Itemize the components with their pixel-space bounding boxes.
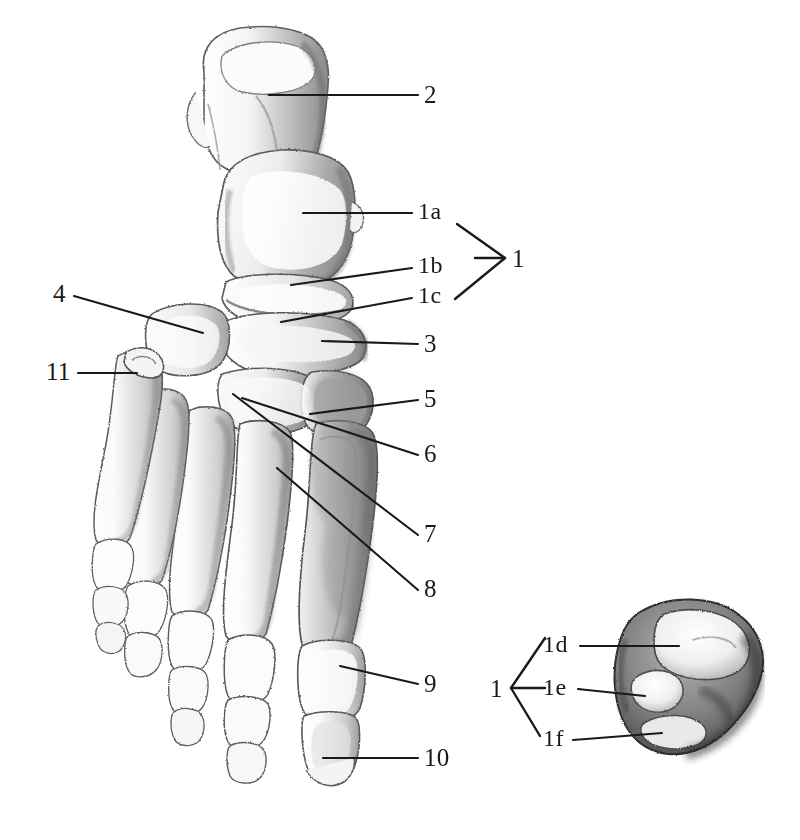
label-1c: 1c [418,283,442,307]
label-11: 11 [46,359,71,384]
navicular-bone [220,313,366,376]
label-1-main: 1 [512,246,525,271]
label-1d: 1d [543,632,568,656]
label-2: 2 [424,82,437,107]
label-1b: 1b [418,253,443,277]
label-7: 7 [424,521,437,546]
label-1e: 1e [543,675,567,699]
label-6: 6 [424,441,437,466]
proximal-phalanx-1 [298,640,366,721]
distal-phalanx-1 [302,712,360,786]
label-5: 5 [424,386,437,411]
label-1f: 1f [543,726,564,750]
label-1a: 1a [418,199,442,223]
label-10: 10 [424,745,450,770]
label-3: 3 [424,331,437,356]
talus-bone [218,150,364,289]
anatomical-plate: 21a1b1c1356789104111d1e1f1 [0,0,800,840]
label-9: 9 [424,671,437,696]
label-1-inset: 1 [490,676,503,701]
foot-skeleton-illustration [0,0,800,840]
label-8: 8 [424,576,437,601]
label-4: 4 [53,281,66,306]
